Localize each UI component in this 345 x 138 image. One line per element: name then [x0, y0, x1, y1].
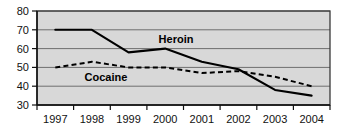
series-label-heroin: Heroin	[159, 33, 194, 45]
x-axis-label-2003: 2003	[263, 113, 287, 125]
x-axis-label-2002: 2002	[226, 113, 250, 125]
x-axis-label-2000: 2000	[153, 113, 177, 125]
x-axis-label-1997: 1997	[43, 113, 67, 125]
x-axis: 1997 1998 1999 2000 2001 2002 2003 2004	[37, 105, 330, 125]
x-axis-label-1999: 1999	[116, 113, 140, 125]
x-axis-label-2004: 2004	[299, 113, 323, 125]
x-axis-label-2001: 2001	[190, 113, 214, 125]
y-axis: 80 70 60 50 40 30	[17, 5, 37, 111]
y-axis-label-30: 30	[17, 99, 29, 111]
series-label-cocaine: Cocaine	[85, 71, 128, 83]
y-axis-label-80: 80	[17, 5, 29, 17]
y-axis-label-70: 70	[17, 24, 29, 36]
y-axis-label-50: 50	[17, 61, 29, 73]
x-axis-label-1998: 1998	[80, 113, 104, 125]
chart-canvas: 80 70 60 50 40 30 1997 1998 1999 2000 20…	[0, 0, 345, 138]
y-axis-label-60: 60	[17, 43, 29, 55]
y-axis-label-40: 40	[17, 80, 29, 92]
line-chart: 80 70 60 50 40 30 1997 1998 1999 2000 20…	[0, 0, 345, 138]
